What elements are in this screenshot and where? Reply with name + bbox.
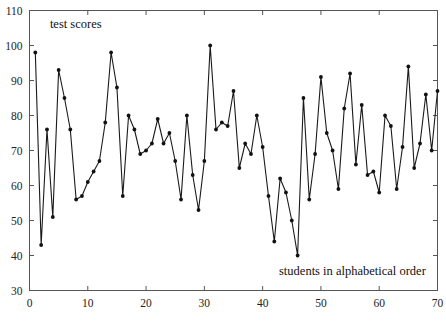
y-tick-label: 40 [11,250,23,262]
data-point [127,114,131,118]
y-tick-label: 50 [11,215,23,227]
data-point [179,198,183,202]
data-point [436,89,440,93]
data-point [319,75,323,79]
data-point [39,243,43,247]
data-point [167,131,171,135]
data-point [133,128,137,132]
x-tick-label: 70 [432,297,444,309]
data-point [226,124,230,128]
data-point [371,170,375,174]
data-point [103,121,107,125]
data-point [337,187,341,191]
data-series [33,44,439,258]
data-point [57,68,61,72]
x-axis-tick-labels: 010203040506070 [27,297,444,309]
x-axis-ticks [30,11,438,291]
data-point [354,163,358,167]
data-point [115,86,119,90]
data-point [144,149,148,153]
x-tick-label: 30 [199,297,211,309]
data-point [412,166,416,170]
y-axis-annotation: test scores [50,17,102,31]
chart-screenshot: 30405060708090100110 010203040506070 tes… [0,0,446,321]
data-point [278,177,282,181]
data-point [331,149,335,153]
series-line [35,46,437,256]
data-point [197,208,201,212]
data-point [92,170,96,174]
data-point [284,191,288,195]
data-point [424,93,428,97]
data-point [86,180,90,184]
x-tick-label: 0 [27,297,33,309]
data-point [51,215,55,219]
y-tick-label: 100 [5,40,23,52]
data-point [313,152,317,156]
data-point [302,96,306,100]
data-point [406,65,410,69]
x-tick-label: 40 [257,297,269,309]
data-point [214,128,218,132]
data-point [191,173,195,177]
data-point [377,191,381,195]
data-point [208,44,212,48]
data-point [307,198,311,202]
data-point [249,152,253,156]
series-markers [33,44,439,258]
data-point [360,103,364,107]
x-tick-label: 20 [140,297,152,309]
y-tick-label: 80 [11,110,23,122]
data-point [33,51,37,55]
data-point [232,89,236,93]
data-point [401,145,405,149]
axis-frame [30,11,438,291]
x-tick-label: 50 [315,297,327,309]
data-point [237,166,241,170]
data-point [109,51,113,55]
data-point [395,187,399,191]
data-point [267,194,271,198]
y-tick-label: 60 [11,180,23,192]
axes [30,11,438,291]
data-point [156,117,160,121]
data-point [255,114,259,118]
data-point [45,128,49,132]
data-point [430,149,434,153]
data-point [296,254,300,258]
data-point [63,96,67,100]
data-point [366,173,370,177]
data-point [74,198,78,202]
plot-canvas: 30405060708090100110 010203040506070 tes… [0,0,446,321]
data-point [80,194,84,198]
data-point [202,159,206,163]
y-axis-tick-labels: 30405060708090100110 [5,5,23,297]
y-tick-label: 90 [11,75,23,87]
data-point [261,145,265,149]
y-tick-label: 70 [11,145,23,157]
x-tick-label: 60 [373,297,385,309]
data-point [173,159,177,163]
data-point [389,124,393,128]
y-tick-label: 110 [6,5,23,17]
data-point [418,142,422,146]
data-point [162,142,166,146]
x-tick-label: 10 [82,297,94,309]
data-point [98,159,102,163]
data-point [342,107,346,111]
data-point [348,72,352,76]
y-axis-ticks [30,11,438,291]
data-point [243,142,247,146]
y-tick-label: 30 [11,285,23,297]
data-point [383,114,387,118]
x-axis-annotation: students in alphabetical order [279,264,427,278]
data-point [68,128,72,132]
data-point [121,194,125,198]
data-point [220,121,224,125]
data-point [290,219,294,223]
data-point [150,142,154,146]
data-point [272,240,276,244]
data-point [138,152,142,156]
scatter-line-plot-figure: 30405060708090100110 010203040506070 tes… [0,0,446,321]
data-point [185,114,189,118]
